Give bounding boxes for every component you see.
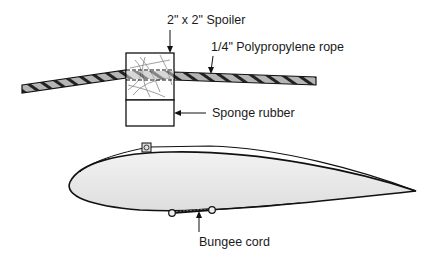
leader-bungee [196, 211, 202, 232]
sponge-rubber-base [126, 100, 174, 126]
label-spoiler: 2" x 2" Spoiler [167, 14, 245, 27]
wing-spoiler [142, 143, 151, 152]
label-bungee-cord: Bungee cord [199, 236, 270, 249]
leader-sponge [174, 110, 206, 116]
wing-airfoil [69, 143, 416, 216]
rope-right [174, 72, 316, 85]
rope-left [22, 70, 126, 93]
leader-rope [208, 56, 214, 74]
label-sponge-rubber: Sponge rubber [212, 107, 295, 120]
label-rope: 1/4" Polypropylene rope [211, 41, 344, 54]
spoiler-block [126, 53, 174, 126]
leader-spoiler [167, 30, 173, 53]
